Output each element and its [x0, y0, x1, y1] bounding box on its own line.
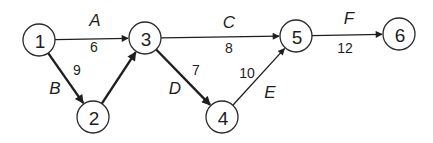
activity-label-e: E — [264, 83, 276, 102]
node-label: 4 — [218, 108, 229, 129]
duration-label-d: 7 — [192, 62, 200, 78]
duration-label-b: 9 — [73, 62, 81, 78]
activity-network-diagram: 123456 A6B9C8D7E10F12 — [0, 0, 433, 143]
node-2: 2 — [77, 101, 109, 133]
edges-layer — [48, 34, 382, 105]
duration-label-e: 10 — [239, 65, 255, 81]
edge-dummy-arrow — [102, 52, 136, 103]
node-4: 4 — [206, 101, 238, 133]
labels-layer: A6B9C8D7E10F12 — [49, 9, 355, 102]
duration-label-c: 8 — [225, 40, 233, 56]
edge-d-arrow — [156, 50, 210, 105]
node-5: 5 — [280, 20, 312, 52]
node-1: 1 — [23, 24, 55, 56]
node-3: 3 — [129, 22, 161, 54]
node-label: 1 — [35, 31, 46, 52]
node-label: 5 — [292, 27, 303, 48]
activity-label-a: A — [88, 11, 100, 30]
activity-label-d: D — [169, 79, 181, 98]
activity-label-c: C — [223, 13, 236, 32]
node-label: 6 — [395, 25, 406, 46]
node-label: 3 — [141, 29, 152, 50]
duration-label-f: 12 — [337, 40, 353, 56]
node-label: 2 — [89, 108, 100, 129]
activity-label-f: F — [344, 9, 356, 28]
node-6: 6 — [383, 18, 415, 50]
edge-f-arrow — [312, 34, 382, 35]
activity-label-b: B — [49, 79, 60, 98]
edge-c-arrow — [161, 36, 279, 38]
duration-label-a: 6 — [90, 39, 98, 55]
